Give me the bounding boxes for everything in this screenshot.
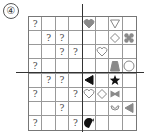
question-mark: ? — [33, 118, 38, 128]
grid-cell-r5-c1 — [42, 88, 55, 102]
grid-cell-r0-c3 — [69, 17, 82, 31]
grid-cell-r5-c7 — [123, 88, 136, 102]
grid-cell-r1-c3 — [69, 31, 82, 45]
problem-number-label: ④ — [3, 3, 19, 19]
grid-cell-r7-c2 — [56, 116, 69, 130]
gray-triangle-left-icon — [123, 102, 135, 114]
grid-cell-r2-c4 — [83, 45, 96, 59]
grid-cell-r4-c0 — [29, 74, 42, 88]
horizontal-axis — [16, 72, 144, 73]
grid-cell-r2-c5 — [96, 45, 109, 59]
grid-cell-r4-c3 — [69, 74, 82, 88]
question-mark: ? — [60, 103, 65, 113]
grid-cell-r2-c2: ? — [56, 45, 69, 59]
question-mark: ? — [60, 33, 65, 43]
white-smile-arc-icon — [109, 102, 121, 114]
white-triangle-down-icon — [109, 18, 121, 30]
grid-cell-r0-c6 — [109, 17, 122, 31]
white-diamond-icon — [109, 32, 121, 44]
question-mark: ? — [46, 33, 51, 43]
grid-cell-r0-c2 — [56, 17, 69, 31]
grid-cell-r5-c5 — [96, 88, 109, 102]
grid-cell-r6-c4 — [83, 102, 96, 116]
grid-cell-r6-c1 — [42, 102, 55, 116]
gray-clover-cross-icon — [123, 32, 135, 44]
grid-cell-r1-c4 — [83, 31, 96, 45]
question-mark: ? — [46, 75, 51, 85]
question-mark: ? — [60, 47, 65, 57]
grid-cell-r0-c5 — [96, 17, 109, 31]
question-mark: ? — [60, 75, 65, 85]
grid-cell-r7-c1 — [42, 116, 55, 130]
grid-cell-r0-c4 — [83, 17, 96, 31]
grid-cell-r1-c7 — [123, 31, 136, 45]
black-star-icon — [109, 74, 121, 86]
grid-cell-r7-c7 — [123, 116, 136, 130]
grid-cell-r1-c5 — [96, 31, 109, 45]
grid-cell-r5-c6 — [109, 88, 122, 102]
grid-cell-r4-c4 — [83, 74, 96, 88]
question-mark: ? — [33, 19, 38, 29]
grid-cell-r0-c1 — [42, 17, 55, 31]
grid-cell-r5-c2 — [56, 88, 69, 102]
grid-cell-r4-c6 — [109, 74, 122, 88]
grid-cell-r2-c0 — [29, 45, 42, 59]
grid-cell-r6-c3 — [69, 102, 82, 116]
black-triangle-left-icon — [83, 74, 95, 86]
grid-cell-r2-c7 — [123, 45, 136, 59]
white-heart-icon — [83, 88, 95, 100]
grid-cell-r1-c0 — [29, 31, 42, 45]
grid-cell-r7-c3: ? — [69, 116, 82, 130]
question-mark: ? — [73, 89, 78, 99]
black-teardrop-icon — [83, 117, 95, 129]
grid-cell-r2-c1 — [42, 45, 55, 59]
grid-cell-r5-c4 — [83, 88, 96, 102]
gray-trapezoid-icon — [109, 60, 121, 72]
grid-cell-r7-c4 — [83, 116, 96, 130]
grid-cell-r2-c6 — [109, 45, 122, 59]
grid-cell-r1-c1: ? — [42, 31, 55, 45]
question-mark: ? — [33, 61, 38, 71]
grid-cell-r0-c0: ? — [29, 17, 42, 31]
gray-bowtie-icon — [109, 88, 121, 100]
grid-cell-r1-c6 — [109, 31, 122, 45]
question-mark: ? — [33, 89, 38, 99]
grid-cell-r1-c2: ? — [56, 31, 69, 45]
grid-cell-r7-c6 — [109, 116, 122, 130]
grid-cell-r6-c2: ? — [56, 102, 69, 116]
grid-cell-r4-c1: ? — [42, 74, 55, 88]
grid-cell-r2-c3: ? — [69, 45, 82, 59]
grid-cell-r7-c5 — [96, 116, 109, 130]
white-diamond-icon — [96, 88, 108, 100]
grid-cell-r7-c0: ? — [29, 116, 42, 130]
grid-cell-r4-c5 — [96, 74, 109, 88]
grid-cell-r6-c7 — [123, 102, 136, 116]
white-circle-icon — [123, 60, 135, 72]
grid-cell-r6-c5 — [96, 102, 109, 116]
grid-cell-r0-c7 — [123, 17, 136, 31]
gray-heart-icon — [83, 18, 95, 30]
grid-cell-r6-c6 — [109, 102, 122, 116]
grid-cell-r6-c0 — [29, 102, 42, 116]
question-mark: ? — [73, 47, 78, 57]
vertical-axis — [82, 4, 83, 132]
grid-cell-r5-c3: ? — [69, 88, 82, 102]
grid-cell-r4-c7 — [123, 74, 136, 88]
grid-cell-r4-c2: ? — [56, 74, 69, 88]
white-heart-icon — [96, 46, 108, 58]
question-mark: ? — [73, 118, 78, 128]
grid-cell-r5-c0: ? — [29, 88, 42, 102]
